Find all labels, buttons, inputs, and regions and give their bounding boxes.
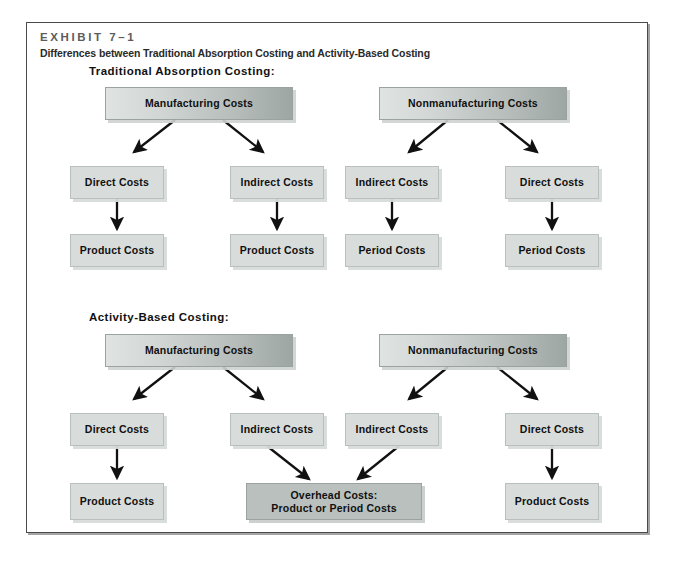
arrow-t-nonmfg-to-indirect xyxy=(409,120,448,152)
node-abc-product-costs-left[interactable]: Product Costs xyxy=(70,483,164,520)
node-label: Product Costs xyxy=(240,244,314,257)
node-label: Product Costs xyxy=(80,495,154,508)
node-label: Manufacturing Costs xyxy=(145,97,253,110)
node-traditional-product-costs-2[interactable]: Product Costs xyxy=(230,234,324,267)
node-label: Product Costs xyxy=(515,495,589,508)
node-abc-mfg-direct-costs[interactable]: Direct Costs xyxy=(70,413,164,446)
node-label-line2: Product or Period Costs xyxy=(271,502,396,515)
node-abc-product-costs-right[interactable]: Product Costs xyxy=(505,483,599,520)
node-label: Period Costs xyxy=(518,244,585,257)
arrow-t-mfg-to-direct xyxy=(134,120,175,152)
node-label: Indirect Costs xyxy=(241,176,314,189)
node-traditional-manufacturing-costs[interactable]: Manufacturing Costs xyxy=(105,87,293,120)
exhibit-subtitle: Differences between Traditional Absorpti… xyxy=(40,47,430,59)
node-label-line1: Overhead Costs: xyxy=(290,489,377,502)
exhibit-label: EXHIBIT 7–1 xyxy=(40,31,136,43)
node-traditional-nonmfg-direct-costs[interactable]: Direct Costs xyxy=(505,166,599,199)
node-traditional-nonmanufacturing-costs[interactable]: Nonmanufacturing Costs xyxy=(379,87,567,120)
exhibit-frame: EXHIBIT 7–1 Differences between Traditio… xyxy=(26,22,648,533)
section-title-traditional: Traditional Absorption Costing: xyxy=(89,65,275,77)
node-traditional-mfg-indirect-costs[interactable]: Indirect Costs xyxy=(230,166,324,199)
node-abc-nonmanufacturing-costs[interactable]: Nonmanufacturing Costs xyxy=(379,334,567,367)
node-traditional-period-costs-2[interactable]: Period Costs xyxy=(505,234,599,267)
node-abc-overhead-costs[interactable]: Overhead Costs: Product or Period Costs xyxy=(246,483,422,520)
node-abc-manufacturing-costs[interactable]: Manufacturing Costs xyxy=(105,334,293,367)
node-label: Manufacturing Costs xyxy=(145,344,253,357)
node-traditional-product-costs-1[interactable]: Product Costs xyxy=(70,234,164,267)
section-title-activity-based: Activity-Based Costing: xyxy=(89,311,229,323)
node-label: Product Costs xyxy=(80,244,154,257)
node-label: Nonmanufacturing Costs xyxy=(408,344,538,357)
arrow-a-indirect-right-to-overhead xyxy=(358,446,399,479)
node-label: Period Costs xyxy=(358,244,425,257)
arrow-a-indirect-left-to-overhead xyxy=(267,446,309,479)
node-label: Direct Costs xyxy=(85,176,149,189)
node-label: Direct Costs xyxy=(85,423,149,436)
node-abc-nonmfg-indirect-costs[interactable]: Indirect Costs xyxy=(345,413,439,446)
arrow-a-mfg-to-indirect xyxy=(223,367,263,399)
arrow-a-mfg-to-direct xyxy=(134,367,175,399)
node-abc-nonmfg-direct-costs[interactable]: Direct Costs xyxy=(505,413,599,446)
arrow-a-nonmfg-to-direct xyxy=(497,367,537,399)
node-label: Indirect Costs xyxy=(241,423,314,436)
arrow-a-nonmfg-to-indirect xyxy=(409,367,448,399)
node-label: Indirect Costs xyxy=(356,176,429,189)
node-traditional-nonmfg-indirect-costs[interactable]: Indirect Costs xyxy=(345,166,439,199)
node-traditional-mfg-direct-costs[interactable]: Direct Costs xyxy=(70,166,164,199)
exhibit-page: EXHIBIT 7–1 Differences between Traditio… xyxy=(0,0,682,569)
node-label: Direct Costs xyxy=(520,423,584,436)
node-label: Direct Costs xyxy=(520,176,584,189)
node-traditional-period-costs-1[interactable]: Period Costs xyxy=(345,234,439,267)
node-label: Nonmanufacturing Costs xyxy=(408,97,538,110)
node-abc-mfg-indirect-costs[interactable]: Indirect Costs xyxy=(230,413,324,446)
arrow-t-nonmfg-to-direct xyxy=(497,120,537,152)
node-label: Indirect Costs xyxy=(356,423,429,436)
arrow-t-mfg-to-indirect xyxy=(223,120,263,152)
